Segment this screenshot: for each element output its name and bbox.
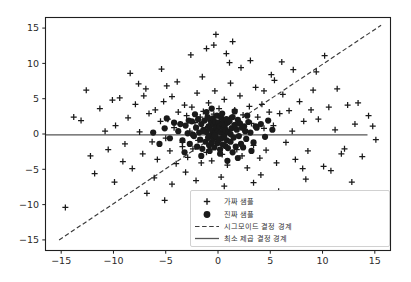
data-point-circle [269,127,275,133]
data-point-circle [175,128,181,134]
data-point-circle [187,141,193,147]
data-point-circle [167,135,173,141]
data-point-circle [230,114,236,120]
data-point-circle [199,146,205,152]
data-point-circle [233,144,239,150]
data-point-circle [177,121,183,127]
y-tick-label: −15 [19,234,39,245]
data-point-circle [221,134,227,140]
data-point-circle [212,132,218,138]
data-point-circle [244,113,250,119]
data-point-circle [245,119,251,125]
data-point-circle [200,128,206,134]
x-tick-label: 5 [267,255,273,266]
data-point-circle [164,115,170,121]
x-tick-label: −10 [103,255,123,266]
x-axis: −15−10−5051015 [51,251,381,267]
data-point-circle [150,129,156,135]
data-point-circle [236,133,242,139]
data-point-circle [179,137,185,143]
x-tick-label: −15 [51,255,71,266]
data-point-circle [235,155,241,161]
y-tick-label: −5 [25,164,39,175]
data-point-circle [243,136,249,142]
data-point-circle [265,117,271,123]
data-point-circle [203,109,209,115]
data-point-circle [198,153,204,159]
data-point-circle [225,145,231,151]
data-point-circle [250,139,256,145]
data-point-circle [240,144,246,150]
y-tick-label: −10 [19,199,39,210]
data-point-circle [171,120,177,126]
data-point-circle [162,125,168,131]
data-point-circle [232,108,238,114]
scatter-plot: −15−10−5051015−15−10−5051015가짜 샘플진짜 샘플시그… [0,0,411,282]
data-point-circle [190,132,196,138]
data-point-circle [156,141,162,147]
x-tick-label: 0 [215,255,221,266]
data-point-circle [207,148,213,154]
data-point-circle [227,131,233,137]
data-point-circle [242,128,248,134]
y-axis: −15−10−5051015 [19,22,46,245]
data-point-circle [192,111,198,117]
legend-item-label: 최소 제곱 결정 경계 [224,234,287,243]
data-point-circle [253,123,259,129]
legend-box [191,191,390,247]
x-tick-label: 15 [369,255,381,266]
data-point-circle [247,129,253,135]
data-point-circle [219,110,225,116]
data-point-circle [209,105,215,111]
legend-item-label: 가짜 샘플 [224,197,254,206]
data-point-circle [181,149,187,155]
x-tick-label: 10 [316,255,328,266]
legend-item-label: 시그모이드 결정 경계 [224,222,292,231]
data-point-circle [217,151,223,157]
data-point-circle [185,130,191,136]
data-point-circle [248,148,254,154]
y-tick-label: 10 [27,58,39,69]
legend-item-label: 진짜 샘플 [224,210,254,219]
x-tick-label: −5 [159,255,173,266]
y-tick-label: 5 [33,93,39,104]
data-point-circle [224,158,230,164]
legend-circle-icon [204,211,211,218]
y-tick-label: 15 [27,22,39,33]
data-point-circle [262,134,268,140]
y-tick-label: 0 [33,128,39,139]
data-point-circle [186,117,192,123]
data-point-circle [230,149,236,155]
legend[interactable]: 가짜 샘플진짜 샘플시그모이드 결정 경계최소 제곱 결정 경계 [191,191,390,247]
figure-canvas: −15−10−5051015−15−10−5051015가짜 샘플진짜 샘플시그… [0,0,411,282]
